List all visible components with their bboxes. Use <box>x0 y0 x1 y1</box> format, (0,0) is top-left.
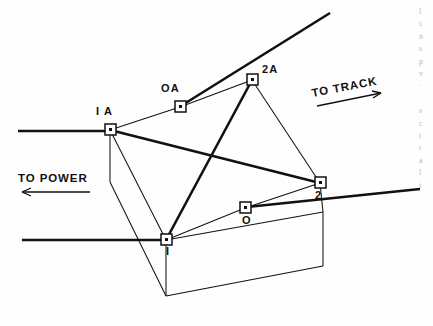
page-edge-text-fragment: l c n s p v · s c t r a l t <box>419 6 433 192</box>
edge-1-o <box>166 208 245 240</box>
node-label-2a: 2A <box>262 64 278 75</box>
pin-marker-2 <box>315 177 326 188</box>
pin-marker-oa <box>175 101 186 112</box>
pin-marker-1 <box>161 234 172 245</box>
pin-joint-markers <box>105 74 326 245</box>
edge-1a-1 <box>110 130 166 240</box>
figure-canvas: I A OA 2A 2 O I TO POWER TO TRACK l c n … <box>0 0 433 326</box>
line-to-track-lower <box>247 189 420 207</box>
edge-bottom-front <box>166 266 323 296</box>
linkage-diagram <box>0 0 433 326</box>
edge-1a-oa <box>110 107 180 130</box>
pin-marker-2a <box>247 74 258 85</box>
pin-marker-1a <box>105 124 116 135</box>
link-1a-to-2 <box>110 130 320 183</box>
pin-marker-o <box>240 202 251 213</box>
to-power-label: TO POWER <box>18 173 88 185</box>
node-label-2: 2 <box>315 190 322 201</box>
line-to-track-upper <box>176 13 330 109</box>
thick-members <box>18 13 420 240</box>
node-label-o: O <box>242 215 252 226</box>
node-label-1a: I A <box>96 106 113 117</box>
node-label-oa: OA <box>161 83 180 94</box>
wireframe-thin-lines <box>110 80 323 296</box>
node-label-1: I <box>166 246 170 257</box>
